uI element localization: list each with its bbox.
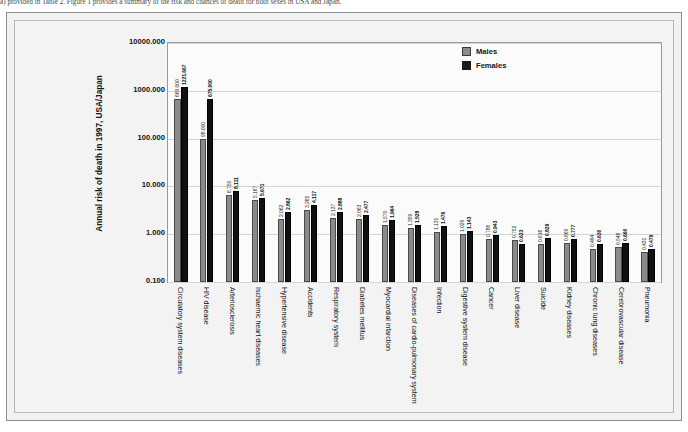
bar-value-label: 0.548 bbox=[615, 232, 621, 244]
x-axis-label: Cerebrovascular disease bbox=[617, 287, 625, 364]
bar-value-label: 0.479 bbox=[648, 235, 654, 247]
bar-females bbox=[545, 238, 551, 282]
x-axis-label: Cancer bbox=[487, 287, 495, 310]
bar-group: 0.6690.777 bbox=[557, 43, 583, 282]
bar-group: 1.0291.143 bbox=[453, 43, 479, 282]
bar-group: 0.7860.943 bbox=[479, 43, 505, 282]
bar-males bbox=[382, 225, 388, 282]
bar-males bbox=[356, 219, 362, 282]
x-axis-label: Diseases of cardio-pulmonary system bbox=[410, 287, 418, 404]
bar-females bbox=[285, 212, 291, 282]
x-axis-label: Pneumonia bbox=[643, 287, 651, 322]
bar-value-label: 2.062 bbox=[278, 205, 284, 217]
x-axis-label: Kidney diseases bbox=[565, 287, 573, 338]
x-axis-label: Accidents bbox=[306, 287, 314, 317]
bar-group: 5.1675.671 bbox=[246, 43, 272, 282]
bar-value-label: 669.000 bbox=[174, 79, 180, 97]
page-root: a) provided in Table 2. Figure 1 provide… bbox=[0, 0, 688, 432]
bar-value-label: 1.131 bbox=[433, 217, 439, 229]
bar-value-label: 0.494 bbox=[589, 235, 595, 247]
bar-females bbox=[207, 99, 213, 282]
bar-females bbox=[571, 239, 577, 282]
x-axis-label: Ischaemic heart diseases bbox=[254, 287, 262, 366]
x-axis-label: Suicide bbox=[539, 287, 547, 310]
bar-value-label: 0.623 bbox=[518, 230, 524, 242]
bar-value-label: 1.528 bbox=[414, 211, 420, 223]
bar-females bbox=[622, 243, 628, 282]
bar-group: 669.0001221.667 bbox=[168, 43, 194, 282]
y-axis-tick: 0.100 bbox=[99, 277, 165, 285]
bar-males bbox=[304, 210, 310, 282]
figure-caption: a) provided in Table 2. Figure 1 provide… bbox=[0, 0, 688, 8]
bar-females bbox=[467, 231, 473, 282]
bar-group: 0.5480.660 bbox=[609, 43, 635, 282]
bar-value-label: 1.359 bbox=[407, 214, 413, 226]
bar-value-label: 1.476 bbox=[440, 212, 446, 224]
scanned-figure-frame: Annual risk of death in 1997, USA/Japan … bbox=[6, 12, 682, 421]
bar-group: 1.1311.476 bbox=[427, 43, 453, 282]
y-axis-tick: 10.000 bbox=[99, 181, 165, 189]
bar-males bbox=[278, 219, 284, 282]
bar-females bbox=[363, 215, 369, 282]
y-axis-ticks: 10000.0001000.000100.00010.0001.0000.100 bbox=[99, 35, 165, 291]
bar-females bbox=[519, 244, 525, 282]
bar-males bbox=[615, 247, 621, 282]
bar-males bbox=[564, 243, 570, 282]
bar-group: 98.000675.000 bbox=[194, 43, 220, 282]
bar-group: 2.1372.888 bbox=[324, 43, 350, 282]
bar-females bbox=[311, 205, 317, 282]
bar-group: 2.0622.862 bbox=[272, 43, 298, 282]
bar-value-label: 5.167 bbox=[252, 186, 258, 198]
bar-males bbox=[641, 252, 647, 282]
bar-group: 0.6160.829 bbox=[531, 43, 557, 282]
x-axis-label: Infection bbox=[435, 287, 443, 313]
bar-value-label: 0.630 bbox=[596, 230, 602, 242]
x-axis-label: Hypertensive disease bbox=[280, 287, 288, 354]
bar-males bbox=[252, 200, 258, 282]
bar-males bbox=[226, 195, 232, 282]
bar-value-label: 6.750 bbox=[226, 180, 232, 192]
bar-value-label: 8.111 bbox=[233, 177, 239, 189]
bar-females bbox=[233, 191, 239, 282]
bar-value-label: 4.117 bbox=[311, 191, 317, 203]
bar-group: 3.2654.117 bbox=[298, 43, 324, 282]
bar-value-label: 98.000 bbox=[200, 122, 206, 137]
bar-value-label: 0.786 bbox=[485, 225, 491, 237]
bar-value-label: 0.752 bbox=[511, 226, 517, 238]
bar-females bbox=[597, 244, 603, 282]
y-axis-tick: 1.000 bbox=[99, 229, 165, 237]
bar-males bbox=[174, 99, 180, 282]
bar-males bbox=[434, 232, 440, 282]
bar-females bbox=[441, 226, 447, 282]
x-axis-label: Diabetes mellitus bbox=[358, 287, 366, 340]
bar-group: 2.0632.477 bbox=[350, 43, 376, 282]
bar-value-label: 1.143 bbox=[466, 217, 472, 229]
x-axis-label: Respiratory system bbox=[332, 287, 340, 347]
bar-value-label: 0.943 bbox=[492, 221, 498, 233]
bar-males bbox=[512, 240, 518, 282]
bar-value-label: 5.671 bbox=[259, 184, 265, 196]
bar-value-label: 3.265 bbox=[304, 195, 310, 207]
bar-females bbox=[389, 220, 395, 282]
bar-value-label: 0.431 bbox=[641, 237, 647, 249]
bar-value-label: 2.063 bbox=[356, 205, 362, 217]
bar-group: 1.3591.528 bbox=[402, 43, 428, 282]
y-axis-tick: 100.000 bbox=[99, 134, 165, 142]
bar-group: 0.7520.623 bbox=[505, 43, 531, 282]
bar-females bbox=[181, 87, 187, 282]
bar-males bbox=[486, 239, 492, 282]
bar-value-label: 1.570 bbox=[382, 211, 388, 223]
bar-series-container: 669.0001221.66798.000675.0006.7508.1115.… bbox=[168, 43, 661, 282]
y-axis-tick: 1000.000 bbox=[99, 86, 165, 94]
bar-value-label: 1221.667 bbox=[181, 64, 187, 84]
bar-males bbox=[408, 228, 414, 282]
bar-value-label: 2.137 bbox=[330, 204, 336, 216]
bar-value-label: 0.777 bbox=[570, 225, 576, 237]
bar-value-label: 0.616 bbox=[537, 230, 543, 242]
bar-males bbox=[200, 139, 206, 282]
bar-males bbox=[590, 249, 596, 282]
bar-value-label: 2.888 bbox=[337, 198, 343, 210]
x-axis-category-labels: Circulatory system diseasesHIV diseaseAr… bbox=[168, 287, 661, 417]
gridline bbox=[168, 282, 661, 283]
bar-males bbox=[460, 234, 466, 282]
